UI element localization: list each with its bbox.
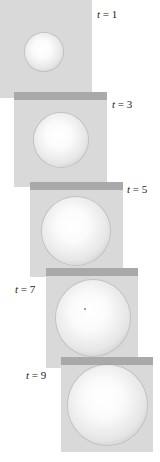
panel-band <box>14 92 107 100</box>
panel-band <box>30 182 123 190</box>
label-t5: t = 5 <box>127 183 147 195</box>
label-t9: t = 9 <box>26 369 46 381</box>
label-t7: t = 7 <box>15 283 35 295</box>
sphere-t9 <box>68 365 147 445</box>
sphere-t1 <box>25 33 63 71</box>
sphere-t7 <box>56 280 130 356</box>
panel-t9 <box>61 357 153 452</box>
panel-t7 <box>46 268 138 368</box>
label-t1: t = 1 <box>97 8 117 20</box>
sphere-t3 <box>34 113 88 167</box>
panel-t1 <box>0 0 92 98</box>
panel-band <box>46 268 138 276</box>
panel-t5 <box>30 182 123 277</box>
sphere-t5 <box>42 197 110 265</box>
panel-t3 <box>14 92 107 187</box>
label-t3: t = 3 <box>112 98 132 110</box>
panel-band <box>61 357 153 365</box>
center-dot <box>84 308 86 310</box>
